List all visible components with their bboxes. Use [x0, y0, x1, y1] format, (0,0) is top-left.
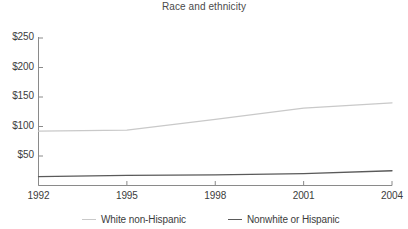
axes [39, 37, 393, 186]
series-line-0 [39, 103, 393, 131]
legend-line-swatch-icon [82, 219, 96, 220]
y-axis-tick-label: $50 [0, 149, 34, 160]
y-axis-tick-label: $150 [0, 90, 34, 101]
x-axis-tick-label: 2001 [284, 190, 324, 201]
legend-line-swatch-icon [228, 219, 242, 220]
chart-container: Race and ethnicity $250$200$150$100$50 1… [0, 0, 408, 229]
y-axis-tick-label: $100 [0, 120, 34, 131]
y-axis-tick-label: $200 [0, 61, 34, 72]
y-axis-ticks [39, 38, 44, 156]
x-axis-tick-label: 1998 [195, 190, 235, 201]
legend-item[interactable]: White non-Hispanic [82, 212, 186, 226]
x-axis-tick-label: 1995 [107, 190, 147, 201]
legend-item[interactable]: Nonwhite or Hispanic [228, 212, 340, 226]
x-axis-ticks [39, 181, 393, 186]
chart-legend: White non-HispanicNonwhite or Hispanic [0, 212, 408, 228]
data-series-group [39, 103, 393, 177]
x-axis-tick-label: 2004 [372, 190, 408, 201]
series-line-1 [39, 171, 393, 177]
legend-item-label: Nonwhite or Hispanic [247, 214, 340, 225]
legend-item-label: White non-Hispanic [101, 214, 186, 225]
x-axis-tick-label: 1992 [19, 190, 59, 201]
y-axis-tick-label: $250 [0, 31, 34, 42]
